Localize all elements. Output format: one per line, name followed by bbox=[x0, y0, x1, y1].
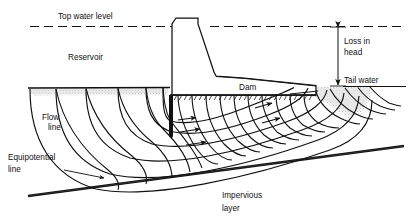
label-impervious-1: Impervious bbox=[222, 191, 262, 200]
figure-canvas: Top water level Reservoir Dam Loss in he… bbox=[0, 0, 416, 224]
cutoff-wall bbox=[169, 95, 173, 139]
label-loss-in-head-line1: Loss in bbox=[344, 37, 370, 46]
dam-base-hatching bbox=[169, 95, 316, 100]
label-equipotential-2: line bbox=[8, 165, 21, 174]
label-impervious-2: layer bbox=[222, 204, 240, 213]
label-dam: Dam bbox=[239, 83, 256, 92]
label-flow-line-2: line bbox=[48, 123, 61, 132]
label-reservoir: Reservoir bbox=[68, 53, 103, 62]
label-flow-line-1: Flow bbox=[42, 113, 59, 122]
impervious-layer-boundary bbox=[28, 146, 404, 196]
label-tail-water: Tail water bbox=[344, 76, 379, 85]
label-equipotential-1: Equipotential bbox=[8, 153, 56, 162]
flow-lines bbox=[30, 88, 372, 192]
reservoir-bed-line bbox=[28, 88, 170, 89]
label-top-water-level: Top water level bbox=[58, 12, 113, 21]
seepage-flow-net-diagram: Top water level Reservoir Dam Loss in he… bbox=[0, 0, 416, 224]
label-loss-in-head-line2: head bbox=[344, 48, 363, 57]
